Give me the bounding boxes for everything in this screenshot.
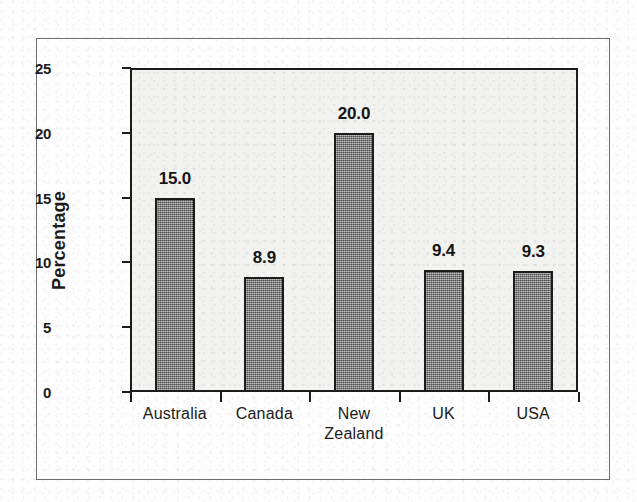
x-axis-category-label-line: Zealand (309, 424, 399, 444)
bar-value-label: 15.0 (135, 170, 215, 187)
bar (155, 198, 195, 392)
bar (513, 271, 553, 392)
x-axis-tick-mark (399, 392, 401, 402)
x-axis-category-label: NewZealand (309, 404, 399, 444)
x-axis-category-label: UK (399, 404, 489, 424)
bar (244, 277, 284, 392)
y-axis-tick-mark (122, 67, 131, 69)
y-axis-tick-label: 25 (17, 61, 51, 76)
y-axis-title: Percentage (46, 155, 74, 325)
x-axis-category-label-line: USA (516, 405, 550, 422)
x-axis-tick-mark (130, 392, 132, 402)
y-axis-tick-label: 15 (17, 190, 51, 205)
x-axis-category-label: Australia (130, 404, 220, 424)
bar (334, 133, 374, 392)
y-axis-title-label: Percentage (50, 190, 71, 289)
y-axis-tick-mark (122, 326, 131, 328)
y-axis-tick-label: 10 (17, 255, 51, 270)
x-axis-tick-mark (488, 392, 490, 402)
x-axis-tick-mark (309, 392, 311, 402)
x-axis-tick-mark (578, 392, 580, 402)
x-axis-category-label: Canada (220, 404, 310, 424)
y-axis-tick-mark (122, 197, 131, 199)
y-axis-tick-label: 0 (17, 385, 51, 400)
bar-value-label: 9.4 (404, 242, 484, 259)
y-axis-tick-label: 20 (17, 125, 51, 140)
bar-value-label: 9.3 (493, 243, 573, 260)
bar-value-label: 20.0 (314, 105, 394, 122)
x-axis-category-label-line: New (338, 405, 371, 422)
x-axis-tick-mark (220, 392, 222, 402)
x-axis-category-label-line: Canada (236, 405, 293, 422)
y-axis-tick-label: 5 (17, 320, 51, 335)
y-axis-tick-mark (122, 132, 131, 134)
bar-value-label: 8.9 (224, 249, 304, 266)
x-axis-category-label-line: UK (432, 405, 455, 422)
y-axis-tick-mark (122, 261, 131, 263)
bar (424, 270, 464, 392)
x-axis-category-label-line: Australia (143, 405, 207, 422)
x-axis-category-label: USA (488, 404, 578, 424)
bar-chart: Percentage 0510152025 15.0Australia8.9Ca… (0, 0, 637, 502)
